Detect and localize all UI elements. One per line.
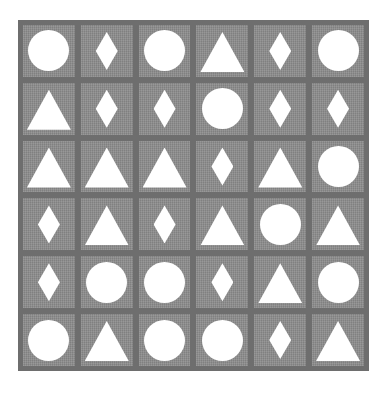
diamond-icon — [154, 205, 176, 243]
triangle-icon — [258, 148, 302, 188]
grid-cell-r1-c6[interactable] — [312, 25, 364, 77]
grid-cell-r6-c1[interactable] — [23, 314, 75, 366]
diamond-icon — [269, 32, 291, 70]
circle-icon — [202, 88, 243, 129]
grid-cell-r4-c3[interactable] — [139, 198, 191, 250]
diamond-icon — [211, 148, 233, 186]
diamond-icon — [96, 90, 118, 128]
grid-cell-r2-c4[interactable] — [196, 83, 248, 135]
diamond-icon — [269, 90, 291, 128]
circle-icon — [144, 262, 185, 303]
diamond-icon — [38, 263, 60, 301]
grid-cell-r3-c3[interactable] — [139, 141, 191, 193]
grid-cell-r6-c6[interactable] — [312, 314, 364, 366]
diamond-icon — [154, 90, 176, 128]
circle-icon — [28, 30, 69, 71]
grid-cell-r5-c4[interactable] — [196, 256, 248, 308]
grid-cell-r1-c2[interactable] — [81, 25, 133, 77]
grid-cell-r5-c2[interactable] — [81, 256, 133, 308]
grid-cell-r4-c5[interactable] — [254, 198, 306, 250]
grid-cell-r4-c4[interactable] — [196, 198, 248, 250]
diamond-icon — [96, 32, 118, 70]
grid-cell-r3-c5[interactable] — [254, 141, 306, 193]
triangle-icon — [200, 205, 244, 245]
circle-icon — [28, 320, 69, 361]
diamond-icon — [269, 321, 291, 359]
grid-cell-r2-c5[interactable] — [254, 83, 306, 135]
grid-cell-r5-c1[interactable] — [23, 256, 75, 308]
circle-icon — [318, 30, 359, 71]
triangle-icon — [85, 205, 129, 245]
grid-cell-r1-c5[interactable] — [254, 25, 306, 77]
grid-cell-r6-c5[interactable] — [254, 314, 306, 366]
grid-cell-r3-c1[interactable] — [23, 141, 75, 193]
grid-cell-r3-c2[interactable] — [81, 141, 133, 193]
grid-cell-r1-c1[interactable] — [23, 25, 75, 77]
grid-cell-r5-c6[interactable] — [312, 256, 364, 308]
grid-cell-r2-c1[interactable] — [23, 83, 75, 135]
circle-icon — [144, 30, 185, 71]
diamond-icon — [211, 263, 233, 301]
circle-icon — [318, 262, 359, 303]
triangle-icon — [27, 90, 71, 130]
grid-cell-r4-c1[interactable] — [23, 198, 75, 250]
triangle-icon — [85, 321, 129, 361]
triangle-icon — [316, 321, 360, 361]
circle-icon — [318, 146, 359, 187]
triangle-icon — [27, 148, 71, 188]
diamond-icon — [327, 90, 349, 128]
circle-icon — [202, 320, 243, 361]
grid-cell-r5-c5[interactable] — [254, 256, 306, 308]
grid-cell-r3-c4[interactable] — [196, 141, 248, 193]
grid-cell-r2-c3[interactable] — [139, 83, 191, 135]
triangle-icon — [143, 148, 187, 188]
grid-cell-r1-c3[interactable] — [139, 25, 191, 77]
grid-cell-r2-c2[interactable] — [81, 83, 133, 135]
grid-cell-r3-c6[interactable] — [312, 141, 364, 193]
grid-cell-r4-c6[interactable] — [312, 198, 364, 250]
circle-icon — [86, 262, 127, 303]
triangle-icon — [316, 205, 360, 245]
grid-cell-r1-c4[interactable] — [196, 25, 248, 77]
grid-cell-r2-c6[interactable] — [312, 83, 364, 135]
diamond-icon — [38, 205, 60, 243]
circle-icon — [144, 320, 185, 361]
grid-cell-r6-c4[interactable] — [196, 314, 248, 366]
circle-icon — [260, 204, 301, 245]
grid-cell-r4-c2[interactable] — [81, 198, 133, 250]
grid-cell-r6-c2[interactable] — [81, 314, 133, 366]
grid-cell-r6-c3[interactable] — [139, 314, 191, 366]
triangle-icon — [85, 148, 129, 188]
triangle-icon — [200, 32, 244, 72]
grid-cell-r5-c3[interactable] — [139, 256, 191, 308]
triangle-icon — [258, 263, 302, 303]
shape-grid-board — [18, 20, 369, 371]
